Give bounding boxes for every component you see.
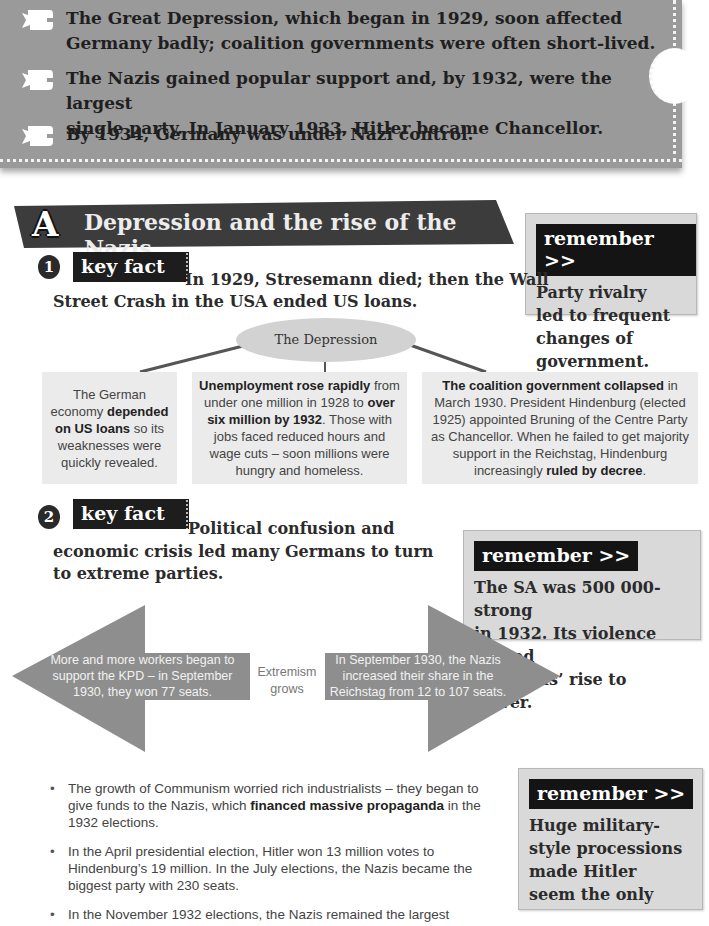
left-arrow-text: More and more workers began to support t… <box>40 652 245 700</box>
extremism-label: Extremism grows <box>252 664 322 698</box>
bullet-item: The growth of Communism worried rich ind… <box>50 780 495 831</box>
remember-line: Huge military- <box>529 814 692 837</box>
remember-box: remember >> Huge military- style process… <box>518 768 703 910</box>
emphasis-text: financed massive propaganda <box>250 798 444 813</box>
body-text: In the April presidential election, Hitl… <box>68 844 472 893</box>
bullet-item: In the April presidential election, Hitl… <box>50 843 495 894</box>
bullet-list: The growth of Communism worried rich ind… <box>50 780 495 926</box>
remember-line: style processions <box>529 837 692 860</box>
remember-line: made Hitler <box>529 860 692 883</box>
right-arrow-text: In September 1930, the Nazis increased t… <box>328 652 508 700</box>
remember-line: seem the only <box>529 883 692 906</box>
remember-tag: remember >> <box>529 779 693 809</box>
body-text: In the November 1932 elections, the Nazi… <box>68 907 449 922</box>
bullet-item: In the November 1932 elections, the Nazi… <box>50 906 495 923</box>
remember-text: Huge military- style processions made Hi… <box>519 809 702 916</box>
